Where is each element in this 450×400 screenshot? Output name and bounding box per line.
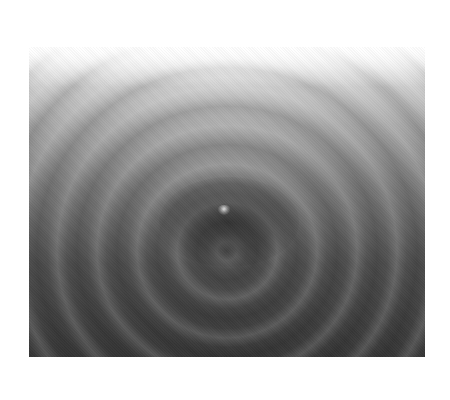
- film-grain: [29, 47, 425, 357]
- ripple-photo: [29, 47, 425, 357]
